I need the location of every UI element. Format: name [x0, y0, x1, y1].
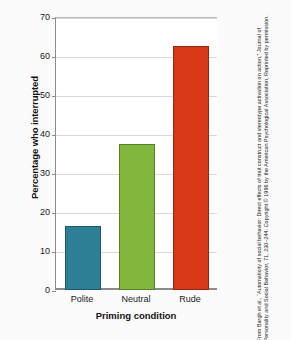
- y-tick-label: 70: [40, 12, 50, 22]
- x-tick-label-rude: Rude: [163, 294, 217, 304]
- y-tick-mark: [52, 57, 56, 58]
- y-tick-label: 30: [40, 168, 50, 178]
- y-tick-mark: [52, 135, 56, 136]
- plot-area: [55, 17, 217, 290]
- x-axis-title: Priming condition: [55, 310, 217, 321]
- y-tick-label: 0: [45, 285, 50, 295]
- y-tick-label: 10: [40, 246, 50, 256]
- x-axis-tick-labels: PoliteNeutralRude: [55, 294, 217, 308]
- bar-chart: Percentage who interrupted 0102030405060…: [0, 0, 232, 340]
- y-axis-tick-labels: 010203040506070: [24, 11, 50, 297]
- x-tick-label-neutral: Neutral: [109, 294, 163, 304]
- y-tick-label: 50: [40, 90, 50, 100]
- y-tick-mark: [52, 213, 56, 214]
- bar-neutral: [119, 144, 155, 290]
- y-tick-mark: [52, 18, 56, 19]
- y-tick-mark: [52, 96, 56, 97]
- y-tick-label: 60: [40, 51, 50, 61]
- figure-root: Percentage who interrupted 0102030405060…: [0, 0, 291, 340]
- source-credit-text: From Bargh et al., “Automaticity of soci…: [256, 9, 271, 340]
- y-tick-label: 20: [40, 207, 50, 217]
- bar-rude: [173, 46, 209, 290]
- y-tick-label: 40: [40, 129, 50, 139]
- x-tick-label-polite: Polite: [55, 294, 109, 304]
- y-tick-mark: [52, 252, 56, 253]
- bar-polite: [65, 226, 101, 290]
- source-credit: From Bargh et al., “Automaticity of soci…: [235, 0, 291, 340]
- y-tick-mark: [52, 174, 56, 175]
- gridline: [56, 18, 217, 19]
- y-tick-mark: [52, 291, 56, 292]
